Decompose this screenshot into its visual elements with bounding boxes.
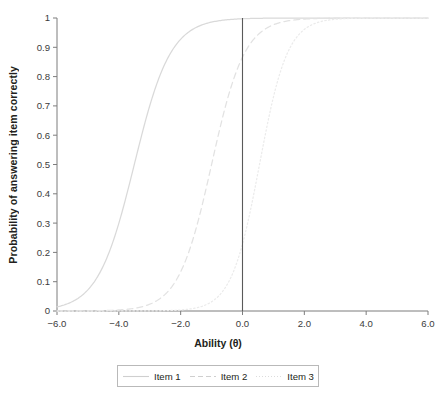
y-axis-tick-label: 0.1 xyxy=(37,276,50,287)
legend-entry-item-1: Item 1 xyxy=(122,371,181,382)
y-axis-tick-label: 0.5 xyxy=(37,159,50,170)
figure-caption xyxy=(0,398,436,408)
y-axis-tick-label: 0.9 xyxy=(37,42,50,53)
x-axis-tick-label: 0.0 xyxy=(236,318,249,329)
tick-label-layer: 00.10.20.30.40.50.60.70.80.91−6.0−4.0−2.… xyxy=(37,12,435,329)
y-axis-tick-label: 0.8 xyxy=(37,71,50,82)
y-axis-tick-label: 1 xyxy=(45,12,50,23)
legend-label-item-1: Item 1 xyxy=(154,371,181,382)
y-axis-tick-label: 0 xyxy=(45,305,50,316)
x-axis-tick-label: −6.0 xyxy=(48,318,67,329)
legend-entry-item-2: Item 2 xyxy=(189,371,248,382)
legend-swatch-item-3 xyxy=(255,372,283,381)
legend-label-item-3: Item 3 xyxy=(287,371,314,382)
x-axis-tick-label: 6.0 xyxy=(421,318,434,329)
x-axis-tick-label: −2.0 xyxy=(171,318,190,329)
x-axis-tick-label: −4.0 xyxy=(109,318,128,329)
figure-container: 00.10.20.30.40.50.60.70.80.91−6.0−4.0−2.… xyxy=(0,0,436,408)
legend-swatch-item-1 xyxy=(122,372,150,381)
y-axis-tick-label: 0.7 xyxy=(37,100,50,111)
y-axis-tick-label: 0.6 xyxy=(37,130,50,141)
y-axis-title-text: Probability of answering item correctly xyxy=(7,66,19,264)
legend-label-item-2: Item 2 xyxy=(221,371,248,382)
y-axis-title: Probability of answering item correctly xyxy=(2,0,24,330)
chart-legend: Item 1 Item 2 Item 3 xyxy=(117,365,319,387)
legend-entry-item-3: Item 3 xyxy=(255,371,314,382)
x-axis-title: Ability (θ) xyxy=(0,337,436,349)
axes-layer xyxy=(53,18,428,315)
y-axis-tick-label: 0.2 xyxy=(37,247,50,258)
y-axis-tick-label: 0.3 xyxy=(37,218,50,229)
x-axis-tick-label: 2.0 xyxy=(298,318,311,329)
legend-swatch-item-2 xyxy=(189,372,217,381)
y-axis-tick-label: 0.4 xyxy=(37,188,51,199)
x-axis-tick-label: 4.0 xyxy=(359,318,372,329)
